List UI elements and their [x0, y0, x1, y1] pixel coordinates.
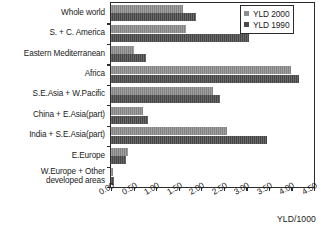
y-axis-tick: [107, 85, 111, 86]
bar-yld-1990: [111, 75, 299, 83]
legend-label-yld-2000: YLD 2000: [253, 9, 289, 19]
bar-yld-2000: [111, 5, 183, 13]
legend-label-yld-1990: YLD 1990: [253, 20, 289, 30]
bar-yld-2000: [111, 127, 227, 135]
legend-swatch-icon-yld-2000: [244, 11, 249, 16]
y-axis-tick: [107, 23, 111, 24]
y-axis-tick: [107, 105, 111, 106]
bar-yld-2000: [111, 87, 213, 95]
bar-yld-1990: [111, 13, 196, 21]
y-axis-label: S.E.Asia + W.Pacific: [0, 89, 105, 98]
bar-yld-1990: [111, 34, 249, 42]
bar-yld-2000: [111, 25, 186, 33]
y-axis-category-labels: Whole worldS. + C. AmericaEastern Medite…: [0, 0, 108, 186]
y-axis-label: Africa: [0, 69, 105, 78]
bar-yld-2000: [111, 46, 134, 54]
x-axis-title: YLD/1000: [277, 214, 316, 224]
y-axis-label: W.Europe + Other developed areas: [0, 167, 105, 185]
legend-swatch-icon-yld-1990: [244, 22, 249, 27]
legend-item-yld-1990: YLD 1990: [244, 19, 289, 30]
bar-yld-1990: [111, 54, 146, 62]
x-axis-tick-labels: 0.000.501.001.502.002.503.003.504.004.50: [110, 188, 320, 214]
bar-yld-1990: [111, 116, 148, 124]
y-axis-tick: [107, 44, 111, 45]
y-axis-tick: [107, 167, 111, 168]
bar-yld-1990: [111, 95, 220, 103]
y-axis-tick: [107, 146, 111, 147]
bar-yld-2000: [111, 148, 128, 156]
y-axis-label: E.Europe: [0, 151, 105, 160]
chart-container: Whole worldS. + C. AmericaEastern Medite…: [0, 0, 321, 231]
y-axis-tick: [107, 126, 111, 127]
legend-item-yld-2000: YLD 2000: [244, 8, 289, 19]
y-axis-label: China + E.Asia(part): [0, 110, 105, 119]
y-axis-label: Whole world: [0, 8, 105, 17]
chart-legend: YLD 2000 YLD 1990: [240, 5, 294, 34]
y-axis-label: S. + C. America: [0, 28, 105, 37]
bar-yld-2000: [111, 66, 291, 74]
y-axis-label: Eastern Mediterranean: [0, 49, 105, 58]
bar-yld-2000: [111, 168, 113, 176]
y-axis-label: India + S.E.Asia(part): [0, 130, 105, 139]
bar-yld-2000: [111, 107, 143, 115]
bar-yld-1990: [111, 136, 267, 144]
bar-yld-1990: [111, 156, 126, 164]
y-axis-tick: [107, 64, 111, 65]
